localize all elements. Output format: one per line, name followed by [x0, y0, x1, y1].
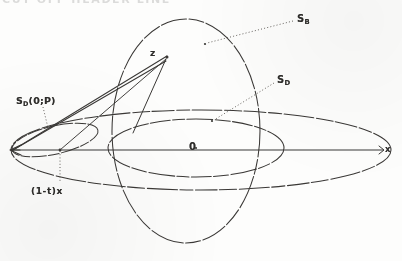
- label-sphere-b: SB: [297, 13, 310, 26]
- point-z-marker: [166, 56, 169, 59]
- label-sphere-d: SD: [277, 74, 290, 87]
- label-origin-0: 0: [189, 141, 196, 152]
- label-sphere-d-subscript: D: [284, 79, 290, 87]
- point-1mt-marker: [59, 149, 62, 152]
- label-sphere-b-subscript: B: [304, 18, 309, 26]
- geometry-figure: [0, 0, 402, 261]
- label-sphere-d-op-base: S: [16, 95, 23, 106]
- clipped-header-text: CUT OFF HEADER LINE: [0, 0, 300, 7]
- label-sphere-d-op-suffix: (0;P): [29, 95, 56, 106]
- label-axis-x-right: x: [385, 144, 391, 154]
- label-sphere-d-of-0-p: SD(0;P): [16, 95, 56, 108]
- point-sb-top-marker: [204, 43, 206, 45]
- chord-z-to-axis: [60, 59, 166, 150]
- point-sd-tangent-marker: [211, 120, 213, 122]
- label-one-minus-t-x: (1-t)x: [31, 186, 63, 196]
- leader-line-sd: [214, 83, 274, 120]
- label-point-z: z: [150, 48, 155, 58]
- narrow-ellipse-sdop-curve: [9, 116, 101, 163]
